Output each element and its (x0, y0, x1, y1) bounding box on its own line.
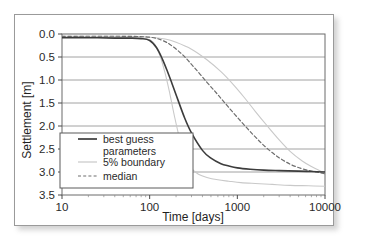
x-tick-label-1000: 1000 (225, 201, 251, 213)
figure-root: 0.00.51.01.52.02.53.03.5 10100100010000 … (0, 0, 366, 248)
y-axis-title: Settlement [m] (20, 81, 34, 158)
legend-label: 5% boundary (103, 156, 166, 168)
y-tick-label-2.5: 2.5 (39, 143, 55, 155)
y-tick-label-0.0: 0.0 (39, 28, 55, 40)
y-tick-label-2.0: 2.0 (39, 120, 55, 132)
y-axis-tick-labels: 0.00.51.01.52.02.53.03.5 (39, 28, 55, 201)
y-tick-label-3.5: 3.5 (39, 189, 55, 201)
y-tick-label-0.5: 0.5 (39, 51, 55, 63)
legend-label: best guess (103, 133, 154, 145)
x-axis-title: Time [days] (162, 210, 224, 224)
x-tick-label-100: 100 (140, 201, 159, 213)
settlement-vs-time-chart: 0.00.51.01.52.02.53.03.5 10100100010000 … (0, 0, 366, 248)
plot-wrapper: 0.00.51.01.52.02.53.03.5 10100100010000 … (0, 0, 366, 248)
y-tick-label-1.0: 1.0 (39, 74, 55, 86)
x-tick-label-10: 10 (56, 201, 69, 213)
legend-label: median (103, 170, 138, 182)
y-tick-label-1.5: 1.5 (39, 97, 55, 109)
chart-legend: best guessparameters5% boundarymedian (60, 133, 193, 188)
x-tick-label-10000: 10000 (309, 201, 341, 213)
y-tick-label-3.0: 3.0 (39, 166, 55, 178)
